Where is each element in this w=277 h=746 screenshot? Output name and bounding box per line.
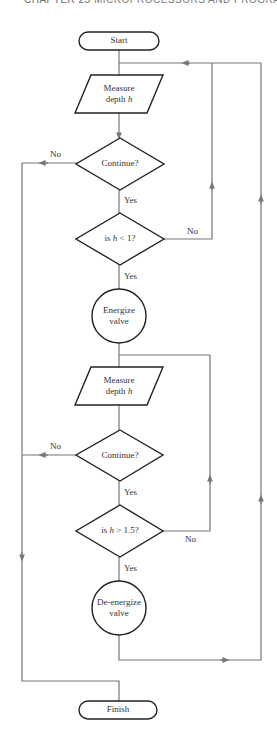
finish-label: Finish <box>79 704 157 715</box>
edge-label-continue1-no: No <box>50 149 61 159</box>
continue2-label: Continue? <box>79 450 161 461</box>
measure1-depth: depth <box>106 94 126 104</box>
measure2-line2: depth h <box>79 386 159 397</box>
measure2-line1: Measure <box>79 375 159 386</box>
measure1-var: h <box>128 94 133 104</box>
energize-line2: valve <box>89 316 149 327</box>
check-low-prefix: is <box>105 233 113 243</box>
edge-label-checkhigh-no: No <box>185 534 196 544</box>
continue1-label: Continue? <box>79 158 161 169</box>
measure2-var: h <box>128 386 133 396</box>
edge-label-continue2-no: No <box>50 441 61 451</box>
flowchart-canvas <box>0 0 277 746</box>
edge-label-checkhigh-yes: Yes <box>124 563 137 573</box>
check-low-suffix: < 1? <box>117 233 135 243</box>
edge-label-continue1-yes: Yes <box>124 195 137 205</box>
check-low-label: is h < 1? <box>79 233 161 244</box>
check-high-suffix: > 1.5? <box>114 525 139 535</box>
energize-label: Energize valve <box>89 305 149 327</box>
edge-label-continue2-yes: Yes <box>124 487 137 497</box>
measure2-depth: depth <box>106 386 126 396</box>
measure2-label: Measure depth h <box>79 375 159 397</box>
measure1-line1: Measure <box>79 83 159 94</box>
edge-label-checklow-yes: Yes <box>124 271 137 281</box>
deenergize-line2: valve <box>84 608 154 619</box>
check-high-label: is h > 1.5? <box>79 525 161 536</box>
energize-line1: Energize <box>89 305 149 316</box>
deenergize-label: De-energize valve <box>84 597 154 619</box>
start-label: Start <box>79 35 159 46</box>
measure1-line2: depth h <box>79 94 159 105</box>
connector-checklow-no <box>164 63 212 239</box>
measure1-label: Measure depth h <box>79 83 159 105</box>
edge-label-checklow-no: No <box>187 226 198 236</box>
deenergize-line1: De-energize <box>84 597 154 608</box>
